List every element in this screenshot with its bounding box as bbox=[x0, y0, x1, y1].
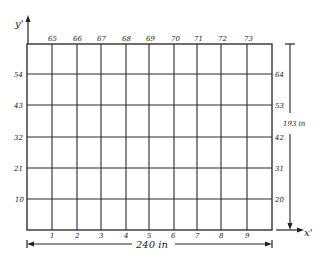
top-label: 67 bbox=[97, 35, 106, 43]
right-label: 20 bbox=[274, 196, 284, 204]
left-label: 21 bbox=[13, 165, 23, 173]
top-label: 68 bbox=[122, 35, 131, 43]
width-dimension-label: 240 in bbox=[135, 239, 168, 250]
right-node-labels: 64 53 42 31 20 bbox=[274, 71, 284, 204]
top-label: 71 bbox=[194, 35, 203, 43]
left-label: 32 bbox=[14, 134, 23, 142]
top-label: 66 bbox=[73, 35, 82, 43]
right-label: 64 bbox=[275, 71, 284, 79]
bottom-label: 1 bbox=[50, 232, 54, 240]
left-label: 54 bbox=[14, 71, 23, 79]
bottom-label: 5 bbox=[147, 232, 152, 240]
grid-diagram: y' x' 193 in 240 in 65 66 67 68 69 70 71… bbox=[0, 0, 325, 259]
bottom-label: 7 bbox=[195, 232, 200, 240]
y-axis-arrow-icon bbox=[26, 15, 31, 44]
bottom-label: 9 bbox=[245, 232, 250, 240]
bottom-label: 3 bbox=[99, 232, 104, 240]
bottom-label: 2 bbox=[74, 232, 80, 240]
height-dimension-label: 193 in bbox=[283, 120, 306, 128]
top-label: 72 bbox=[218, 35, 227, 43]
top-label: 73 bbox=[244, 35, 253, 43]
right-label: 31 bbox=[275, 165, 284, 173]
top-node-labels: 65 66 67 68 69 70 71 72 73 bbox=[48, 35, 253, 43]
left-label: 43 bbox=[13, 102, 23, 110]
top-label: 70 bbox=[171, 35, 180, 43]
bottom-label: 8 bbox=[219, 232, 224, 240]
right-label: 42 bbox=[274, 134, 284, 142]
y-axis-label: y' bbox=[14, 18, 23, 29]
bottom-label: 6 bbox=[171, 232, 176, 240]
top-label: 69 bbox=[146, 35, 155, 43]
bottom-node-labels: 1 2 3 4 5 6 7 8 9 bbox=[50, 232, 250, 240]
left-label: 10 bbox=[15, 196, 24, 204]
top-label: 65 bbox=[48, 35, 57, 43]
right-label: 53 bbox=[275, 102, 284, 110]
bottom-label: 4 bbox=[123, 232, 128, 240]
left-node-labels: 54 43 32 21 10 bbox=[13, 71, 24, 204]
x-axis-label: x' bbox=[304, 227, 312, 238]
height-dimension-line bbox=[285, 44, 295, 230]
